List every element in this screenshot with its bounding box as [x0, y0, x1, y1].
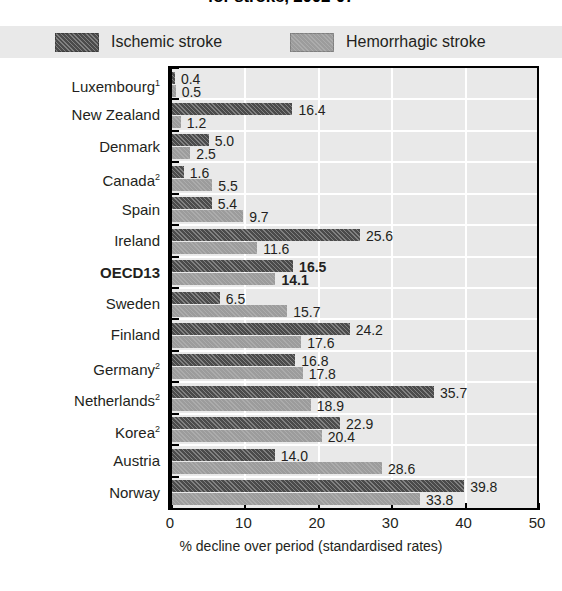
bar-value-ischemic-austria: 14.0	[281, 450, 308, 462]
bar-hemorrhagic-germany[interactable]	[172, 367, 303, 379]
y-tick	[172, 476, 179, 478]
bar-value-ischemic-netherlands: 35.7	[440, 387, 467, 399]
bar-hemorrhagic-oecd13[interactable]	[172, 273, 275, 285]
bar-value-hemorrhagic-austria: 28.6	[388, 463, 415, 475]
legend-item-ischemic-stroke[interactable]: Ischemic stroke	[55, 26, 222, 58]
bar-ischemic-germany[interactable]	[172, 354, 295, 366]
y-tick	[172, 98, 179, 100]
row-separator	[172, 130, 539, 132]
bar-hemorrhagic-luxembourg[interactable]	[172, 85, 176, 97]
x-axis-title: % decline over period (standardised rate…	[0, 538, 562, 554]
bar-ischemic-netherlands[interactable]	[172, 386, 434, 398]
bar-value-ischemic-denmark: 5.0	[215, 135, 234, 147]
bar-hemorrhagic-spain[interactable]	[172, 210, 243, 222]
bar-ischemic-ireland[interactable]	[172, 229, 360, 241]
category-label-new-zealand: New Zealand	[72, 99, 160, 130]
bar-hemorrhagic-sweden[interactable]	[172, 305, 287, 317]
bar-ischemic-spain[interactable]	[172, 197, 212, 209]
bar-hemorrhagic-finland[interactable]	[172, 336, 301, 348]
bar-hemorrhagic-korea[interactable]	[172, 430, 322, 442]
x-ticklabel-50: 50	[529, 514, 546, 531]
bar-value-hemorrhagic-norway: 33.8	[426, 494, 453, 506]
row-separator	[172, 161, 539, 163]
category-axis: Luxembourg1New ZealandDenmarkCanada2Spai…	[0, 68, 168, 508]
footnote-marker: 1	[155, 78, 160, 88]
bar-value-ischemic-luxembourg: 0.4	[181, 73, 200, 85]
category-label-korea: Korea2	[115, 414, 160, 445]
bar-ischemic-korea[interactable]	[172, 417, 340, 429]
y-tick	[172, 444, 179, 446]
bar-ischemic-luxembourg[interactable]	[172, 72, 175, 84]
bar-ischemic-canada[interactable]	[172, 166, 184, 178]
x-ticklabel-10: 10	[235, 514, 252, 531]
bar-hemorrhagic-norway[interactable]	[172, 493, 420, 505]
footnote-marker: 2	[155, 424, 160, 434]
row-separator	[172, 193, 539, 195]
category-label-spain: Spain	[122, 194, 160, 225]
bar-hemorrhagic-denmark[interactable]	[172, 147, 190, 159]
row-separator	[172, 98, 539, 100]
bar-value-ischemic-new-zealand: 16.4	[298, 104, 325, 116]
y-tick	[172, 193, 179, 195]
bar-hemorrhagic-canada[interactable]	[172, 179, 212, 191]
bar-value-hemorrhagic-finland: 17.6	[307, 337, 334, 349]
bar-ischemic-austria[interactable]	[172, 449, 275, 461]
bar-value-hemorrhagic-ireland: 11.6	[263, 243, 289, 255]
bar-value-hemorrhagic-sweden: 15.7	[293, 306, 320, 318]
row-separator	[172, 287, 539, 289]
bar-ischemic-norway[interactable]	[172, 480, 464, 492]
y-tick	[172, 256, 179, 258]
category-label-luxembourg: Luxembourg1	[72, 68, 160, 99]
row-separator	[172, 256, 539, 258]
page-title: for stroke, 2002-07	[0, 0, 562, 7]
category-label-ireland: Ireland	[114, 225, 160, 256]
category-label-germany: Germany2	[93, 351, 160, 382]
row-separator	[172, 444, 539, 446]
legend-swatch-ischemic-icon	[55, 33, 99, 52]
bar-ischemic-new-zealand[interactable]	[172, 103, 292, 115]
bar-ischemic-oecd13[interactable]	[172, 260, 293, 272]
y-tick	[172, 350, 179, 352]
bar-value-hemorrhagic-korea: 20.4	[328, 431, 355, 443]
legend-label-hemorrhagic: Hemorrhagic stroke	[346, 33, 486, 51]
category-label-canada: Canada2	[102, 162, 160, 193]
row-separator	[172, 318, 539, 320]
legend-label-ischemic: Ischemic stroke	[111, 33, 222, 51]
row-separator	[172, 381, 539, 383]
y-tick	[172, 161, 179, 163]
bar-ischemic-denmark[interactable]	[172, 134, 209, 146]
category-label-sweden: Sweden	[106, 288, 160, 319]
footnote-marker: 2	[155, 172, 160, 182]
bar-value-hemorrhagic-netherlands: 18.9	[317, 400, 344, 412]
plot-area: 0.40.516.41.25.02.51.65.55.49.725.611.61…	[170, 68, 539, 508]
y-tick	[172, 413, 179, 415]
bar-ischemic-finland[interactable]	[172, 323, 350, 335]
bar-hemorrhagic-netherlands[interactable]	[172, 399, 311, 411]
bar-hemorrhagic-austria[interactable]	[172, 462, 382, 474]
bar-value-ischemic-canada: 1.6	[190, 167, 209, 179]
category-label-oecd13: OECD13	[100, 257, 160, 288]
x-ticklabel-0: 0	[166, 514, 174, 531]
bar-value-ischemic-sweden: 6.5	[226, 293, 245, 305]
bar-value-hemorrhagic-spain: 9.7	[249, 211, 268, 223]
category-label-netherlands: Netherlands2	[74, 382, 160, 413]
bar-ischemic-sweden[interactable]	[172, 292, 220, 304]
bar-value-hemorrhagic-canada: 5.5	[218, 180, 237, 192]
category-label-norway: Norway	[109, 477, 160, 508]
y-tick	[172, 67, 179, 69]
bar-hemorrhagic-ireland[interactable]	[172, 242, 257, 254]
y-tick	[172, 381, 179, 383]
footnote-marker: 2	[155, 361, 160, 371]
row-separator	[172, 224, 539, 226]
bar-value-ischemic-ireland: 25.6	[366, 230, 393, 242]
category-label-finland: Finland	[111, 319, 160, 350]
x-ticklabel-20: 20	[308, 514, 325, 531]
x-ticklabel-40: 40	[455, 514, 472, 531]
row-separator	[172, 413, 539, 415]
bar-hemorrhagic-new-zealand[interactable]	[172, 116, 181, 128]
legend-item-hemorrhagic-stroke[interactable]: Hemorrhagic stroke	[290, 26, 486, 58]
row-separator	[172, 350, 539, 352]
bar-value-hemorrhagic-denmark: 2.5	[196, 148, 215, 160]
bar-value-hemorrhagic-luxembourg: 0.5	[182, 86, 201, 98]
y-tick	[172, 224, 179, 226]
